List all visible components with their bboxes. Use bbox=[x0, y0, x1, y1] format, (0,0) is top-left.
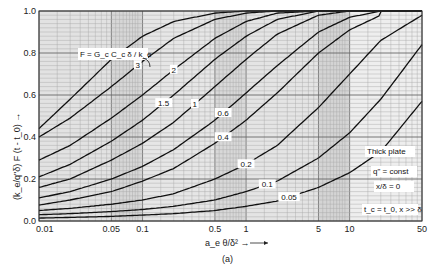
y-tick-label: 0.6 bbox=[23, 90, 36, 100]
x-tick-label: 50 bbox=[417, 224, 427, 234]
x-tick-label: 0.1 bbox=[136, 224, 149, 234]
y-tick-label: 0.2 bbox=[23, 174, 36, 184]
curve-label: 1.5 bbox=[158, 99, 170, 108]
curve-label: 0.2 bbox=[241, 160, 253, 169]
x-tick-label: 10 bbox=[345, 224, 355, 234]
y-tick-label: 1.0 bbox=[23, 6, 36, 16]
x-tick-label: 1 bbox=[244, 224, 249, 234]
annotation-thick-plate: Thick plate bbox=[367, 147, 406, 156]
x-tick-label: 0.05 bbox=[103, 224, 121, 234]
y-tick-label: 0.8 bbox=[23, 48, 36, 58]
x-tick-label: 0.01 bbox=[36, 224, 54, 234]
curve-label: 0.05 bbox=[281, 193, 297, 202]
annotation-q-const: q" = const bbox=[373, 167, 409, 176]
curve-label: 2 bbox=[171, 66, 176, 75]
curve-label: 0.4 bbox=[218, 133, 230, 142]
x-tick-label: 0.5 bbox=[209, 224, 222, 234]
curve-label: 0.1 bbox=[262, 180, 274, 189]
curve-label: 3 bbox=[136, 61, 141, 70]
x-tick-label: 5 bbox=[316, 224, 321, 234]
annotation-tc-t0: t_c = t_0, x >> δ bbox=[364, 205, 422, 214]
x-axis-label: a_e θ/δ² → bbox=[205, 238, 250, 248]
curve-label: 1 bbox=[193, 100, 198, 109]
y-axis-label: (k_e/q"δ) F (t - t_0) → bbox=[12, 113, 22, 200]
y-axis-ticks: 0.00.20.40.60.81.0 bbox=[23, 6, 36, 226]
legend-title-text: F = G_c C_c δ / k_e bbox=[80, 50, 152, 59]
chart: 5321.510.60.40.20.10.05 0.010.050.10.515… bbox=[0, 0, 435, 267]
curve-label: 0.6 bbox=[218, 109, 230, 118]
y-tick-label: 0.4 bbox=[23, 132, 36, 142]
annotation-x-delta: x/δ = 0 bbox=[376, 182, 401, 191]
figure-caption: (a) bbox=[222, 254, 233, 264]
y-tick-label: 0.0 bbox=[23, 216, 36, 226]
